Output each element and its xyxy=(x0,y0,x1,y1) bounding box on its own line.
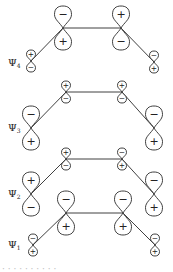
p-orbital-c1: +− xyxy=(27,50,36,72)
p-orbital-c1: −+ xyxy=(23,106,40,150)
plus-sign: + xyxy=(26,174,35,187)
minus-sign: − xyxy=(63,94,69,103)
mo-diagram: +−−++−−+Ψ4−++−+−−+Ψ3+−+−−+−+Ψ2−+−+−+−+Ψ1 xyxy=(0,0,173,272)
minus-sign: − xyxy=(119,148,125,157)
orbital-psi-4: +−−++−−+Ψ4 xyxy=(8,6,159,73)
p-orbital-c1: +− xyxy=(23,172,40,216)
psi-label: Ψ1 xyxy=(8,239,21,251)
minus-sign: − xyxy=(30,234,36,243)
minus-sign: − xyxy=(116,35,125,48)
minus-sign: − xyxy=(152,234,158,243)
psi-label: Ψ3 xyxy=(8,122,21,134)
minus-sign: − xyxy=(119,94,125,103)
psi-label: Ψ4 xyxy=(8,57,21,69)
plus-sign: + xyxy=(63,81,69,90)
plus-sign: + xyxy=(58,35,67,48)
minus-sign: − xyxy=(63,161,69,170)
plus-sign: + xyxy=(119,161,125,170)
p-orbital-c4: −+ xyxy=(146,106,163,150)
plus-sign: + xyxy=(149,201,158,214)
minus-sign: − xyxy=(28,63,34,72)
p-orbital-c1: −+ xyxy=(29,234,38,256)
plus-sign: + xyxy=(151,64,157,73)
psi-label: Ψ2 xyxy=(8,188,21,200)
minus-sign: − xyxy=(149,174,158,187)
plus-sign: + xyxy=(149,135,158,148)
minus-sign: − xyxy=(26,201,35,214)
p-orbital-c4: −+ xyxy=(146,172,163,216)
minus-sign: − xyxy=(118,193,127,206)
minus-sign: − xyxy=(151,51,157,60)
orbital-psi-2: +−+−−+−+Ψ2 xyxy=(8,148,163,216)
plus-sign: + xyxy=(118,220,127,233)
plus-sign: + xyxy=(63,148,69,157)
minus-sign: − xyxy=(61,193,70,206)
plus-sign: + xyxy=(26,135,35,148)
plus-sign: + xyxy=(30,247,36,256)
plus-sign: + xyxy=(119,81,125,90)
plus-sign: + xyxy=(152,247,158,256)
plus-sign: + xyxy=(116,8,125,21)
minus-sign: − xyxy=(149,108,158,121)
plus-sign: + xyxy=(61,220,70,233)
p-orbital-c4: −+ xyxy=(151,234,160,256)
minus-sign: − xyxy=(58,8,67,21)
plus-sign: + xyxy=(28,50,34,59)
orbital-psi-3: −++−+−−+Ψ3 xyxy=(8,81,163,150)
orbital-layer: +−−++−−+Ψ4−++−+−−+Ψ3+−+−−+−+Ψ2−+−+−+−+Ψ1 xyxy=(8,6,163,256)
figure-caption-cutoff: · · · · · · · · · · xyxy=(2,265,172,272)
minus-sign: − xyxy=(26,108,35,121)
p-orbital-c4: −+ xyxy=(150,51,159,73)
